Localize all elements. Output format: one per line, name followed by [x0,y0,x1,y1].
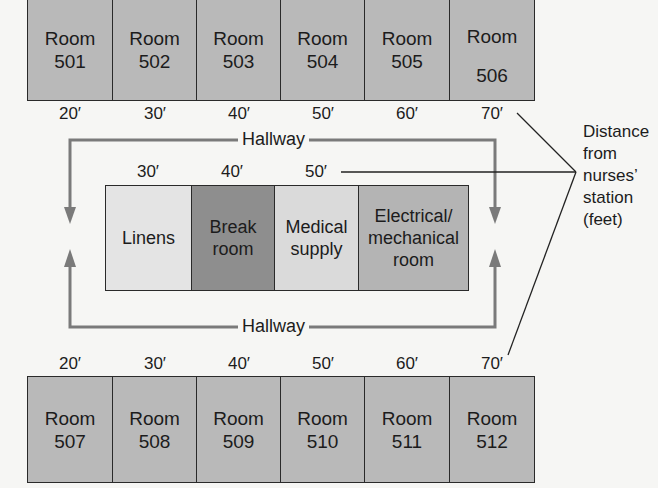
arrow-down-right-icon [489,207,501,224]
distance-label: 40′ [214,354,264,374]
room-label: Room [129,407,180,430]
room-511: Room 511 [364,376,450,483]
leader-line-top [517,113,576,172]
legend-line: nurses’ [583,165,649,187]
room-number: 505 [391,50,423,73]
room-number: 503 [223,50,255,73]
arrow-down-left-icon [64,207,76,224]
room-label: Room [467,25,518,48]
room-label: Room [213,27,264,50]
room-label: Room [45,407,96,430]
room-label: room [368,249,459,271]
room-label: Linens [122,228,175,248]
room-509: Room 509 [196,376,281,483]
room-number: 512 [476,430,508,453]
distance-label: 60′ [382,104,432,124]
room-label: Room [297,27,348,50]
distance-legend: Distance from nurses’ station (feet) [583,121,649,231]
leader-line-bottom [508,172,576,355]
room-label: Room [382,407,433,430]
room-linens: Linens [105,185,192,291]
room-label: Room [467,407,518,430]
room-512: Room 512 [449,376,535,483]
room-label: Room [297,407,348,430]
room-medical-supply: Medical supply [274,185,359,291]
room-label: supply [285,238,347,260]
distance-label: 30′ [123,162,173,182]
room-number: 511 [392,430,422,453]
room-number: 501 [54,50,86,73]
room-number: 510 [307,430,339,453]
legend-line: from [583,143,649,165]
room-label: room [209,238,256,260]
legend-line: Distance [583,121,649,143]
room-label: Break [209,216,256,238]
room-502: Room 502 [112,0,197,101]
hallway-top-label: Hallway [238,129,309,150]
distance-label: 60′ [382,354,432,374]
distance-label: 30′ [130,354,180,374]
room-number: 504 [307,50,339,73]
room-label: Medical [285,216,347,238]
room-510: Room 510 [280,376,365,483]
room-break: Break room [191,185,275,291]
distance-label: 70′ [467,354,517,374]
room-504: Room 504 [280,0,365,101]
room-505: Room 505 [364,0,450,101]
distance-label: 70′ [467,104,517,124]
hallway-bottom-label: Hallway [238,316,309,337]
room-label: Room [129,27,180,50]
room-label: Room [382,27,433,50]
distance-label: 20′ [45,104,95,124]
room-label: Room [213,407,264,430]
room-label: Electrical/ [368,205,459,227]
room-number: 509 [223,430,255,453]
distance-label: 40′ [207,162,257,182]
room-508: Room 508 [112,376,197,483]
legend-line: (feet) [583,209,649,231]
room-503: Room 503 [196,0,281,101]
room-501: Room 501 [27,0,113,101]
distance-label: 50′ [291,162,341,182]
room-electrical-mechanical: Electrical/ mechanical room [358,185,469,291]
arrow-up-right-icon [489,249,501,267]
legend-line: station [583,187,649,209]
distance-label: 40′ [214,104,264,124]
room-506: Room 506 [449,0,535,101]
distance-label: 50′ [298,104,348,124]
room-number: 508 [139,430,171,453]
distance-label: 20′ [45,354,95,374]
room-number: 507 [54,430,86,453]
room-label: mechanical [368,227,459,249]
room-number: 502 [139,50,171,73]
arrow-up-left-icon [64,249,76,267]
room-507: Room 507 [27,376,113,483]
room-label: Room [45,27,96,50]
room-number: 506 [476,64,508,87]
distance-label: 30′ [130,104,180,124]
distance-label: 50′ [298,354,348,374]
